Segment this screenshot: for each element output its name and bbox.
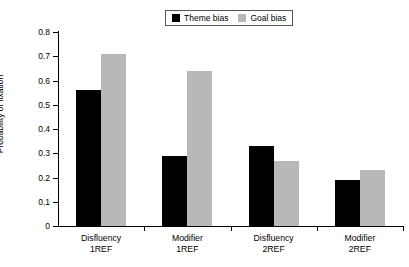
bar-goal-bias [101, 54, 126, 226]
bar-goal-bias [274, 161, 299, 226]
x-axis-category-label: Modifier1REF [141, 233, 233, 255]
legend-label-theme-bias: Theme bias [184, 14, 228, 23]
bar-theme-bias [76, 90, 101, 226]
x-axis-tick [317, 226, 318, 231]
y-axis-tick-label: 0.2 [4, 174, 50, 182]
x-axis-category-label: Disfluency2REF [228, 233, 320, 255]
bar-theme-bias [335, 180, 360, 226]
y-axis-tick-label: 0.3 [4, 149, 50, 157]
legend-label-goal-bias: Goal bias [250, 14, 286, 23]
category-label-line2: 1REF [55, 244, 147, 255]
legend-entry-theme-bias: Theme bias [172, 14, 228, 23]
category-label-line1: Disfluency [254, 233, 294, 243]
category-label-line2: 1REF [141, 244, 233, 255]
plot-area [58, 32, 403, 226]
category-label-line1: Modifier [344, 233, 375, 243]
y-axis-tick-label: 0.6 [4, 77, 50, 85]
y-axis-tick-label: 0.1 [4, 198, 50, 206]
legend-swatch-theme-bias [172, 14, 180, 22]
bar-goal-bias [360, 170, 385, 226]
category-label-line2: 2REF [314, 244, 406, 255]
bar-chart-figure: Theme bias Goal bias Probability of fixa… [0, 0, 409, 267]
bar-theme-bias [162, 156, 187, 226]
bar-theme-bias [249, 146, 274, 226]
category-label-line1: Disfluency [81, 233, 121, 243]
y-axis-tick-label: 0 [4, 222, 50, 230]
x-axis-category-label: Disfluency1REF [55, 233, 147, 255]
x-axis-tick [144, 226, 145, 231]
bar-goal-bias [187, 71, 212, 226]
y-axis-tick [53, 226, 58, 227]
legend-entry-goal-bias: Goal bias [238, 14, 286, 23]
legend-swatch-goal-bias [238, 14, 246, 22]
y-axis-tick-label: 0.7 [4, 52, 50, 60]
x-axis-tick [403, 226, 404, 231]
chart-legend: Theme bias Goal bias [165, 10, 293, 26]
x-axis-category-label: Modifier2REF [314, 233, 406, 255]
y-axis-tick-label: 0.5 [4, 101, 50, 109]
category-label-line1: Modifier [172, 233, 203, 243]
category-label-line2: 2REF [228, 244, 320, 255]
y-axis-tick-label: 0.4 [4, 125, 50, 133]
y-axis-tick-label: 0.8 [4, 28, 50, 36]
x-axis-tick [231, 226, 232, 231]
